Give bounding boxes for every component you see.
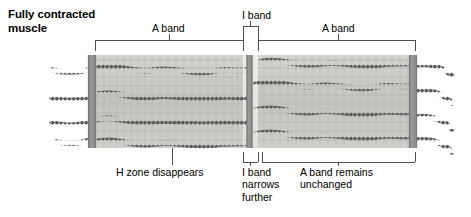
label-a-band-left: A band <box>152 22 185 34</box>
actin-tails-left <box>52 70 90 143</box>
bracket-a-band-left <box>95 40 243 51</box>
z-disc-center <box>247 55 253 148</box>
bracket-i-band-bottom <box>243 152 258 162</box>
figure-canvas: Fully contracted muscle A band I band A … <box>0 0 471 217</box>
figure-title: Fully contracted muscle <box>8 8 128 35</box>
label-h-zone-note: H zone disappears <box>116 166 204 178</box>
label-a-band-note: A band remains unchanged <box>300 166 410 191</box>
myofibril-body <box>52 55 452 152</box>
bracket-a-band-right <box>258 40 415 51</box>
z-disc-right <box>409 55 417 148</box>
label-a-band-right: A band <box>322 22 355 34</box>
bracket-a-band-bottom <box>262 152 415 162</box>
label-i-band-note: I band narrows further <box>242 166 286 203</box>
actin-tails-right <box>412 64 452 152</box>
z-disc-left <box>88 55 96 148</box>
bracket-i-band-top <box>243 26 258 40</box>
label-i-band-top: I band <box>242 9 271 21</box>
